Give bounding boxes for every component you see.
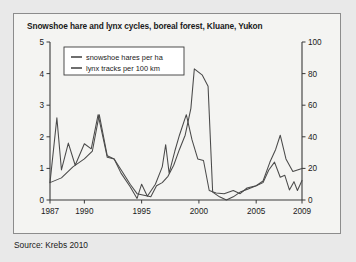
right-axis-tick-label: 100 (308, 38, 322, 47)
x-axis-tick-label: 2005 (247, 207, 266, 216)
x-axis-tick-label: 2009 (293, 207, 312, 216)
series-line-1 (50, 115, 302, 199)
legend-label-1: snowshoe hares per ha (86, 53, 164, 62)
chart-svg: 0123450204060801001987199019952000200520… (14, 14, 342, 235)
chart-legend[interactable]: snowshoe hares per halynx tracks per 100… (64, 47, 184, 75)
plot-area: 0123450204060801001987199019952000200520… (14, 14, 342, 235)
legend-label-2: lynx tracks per 100 km (86, 64, 160, 73)
right-axis-tick-label: 0 (308, 196, 313, 205)
source-note: Source: Krebs 2010 (14, 240, 88, 250)
right-axis-tick-label: 80 (308, 70, 318, 79)
x-axis-tick-label: 1990 (75, 207, 94, 216)
x-axis-tick-label: 1995 (133, 207, 152, 216)
right-axis-tick-label: 40 (308, 133, 318, 142)
right-axis-tick-label: 60 (308, 101, 318, 110)
x-axis-tick-label: 1987 (41, 207, 60, 216)
series-group (50, 69, 302, 200)
x-axis-tick-label: 2000 (190, 207, 209, 216)
left-axis-tick-label: 0 (39, 196, 44, 205)
right-axis-tick-label: 20 (308, 164, 318, 173)
left-axis-tick-label: 1 (39, 164, 44, 173)
left-axis-tick-label: 4 (39, 70, 44, 79)
chart-figure: Snowshoe hare and lynx cycles, boreal fo… (13, 13, 341, 234)
left-axis-tick-label: 5 (39, 38, 44, 47)
left-axis-tick-label: 2 (39, 133, 44, 142)
left-axis-tick-label: 3 (39, 101, 44, 110)
